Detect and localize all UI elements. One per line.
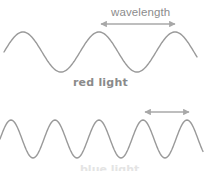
blue-light-wave	[0, 120, 203, 158]
wavelength-label: wavelength	[111, 6, 170, 18]
blue-light-label: blue light	[80, 163, 139, 171]
red-light-wave	[4, 32, 197, 72]
red-light-label: red light	[73, 76, 128, 89]
wavelength-diagram: wavelength red light blue light	[0, 0, 205, 171]
